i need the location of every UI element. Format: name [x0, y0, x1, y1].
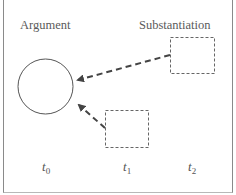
arrow-t1-to-argument: [79, 105, 105, 128]
time-label-t2: t2: [188, 160, 196, 176]
argument-circle: [18, 59, 73, 114]
time-label-t0: t0: [42, 160, 50, 176]
substantiation-box-t1: [106, 111, 149, 148]
diagram-canvas: [0, 0, 236, 195]
substantiation-box-t2: [171, 38, 215, 74]
arrow-t2-to-argument: [78, 55, 170, 80]
time-label-t1: t1: [123, 160, 131, 176]
